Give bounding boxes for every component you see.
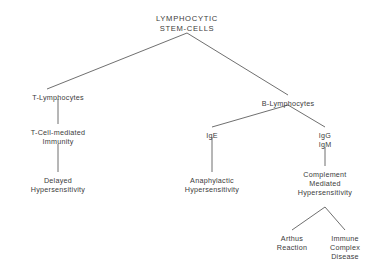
node-t-cell-mediated-immunity: T-Cell-mediatedImmunity [31, 128, 85, 146]
node-label-line: Anaphylactic [185, 176, 239, 185]
edge-b-lymphocytes-to-ige [212, 105, 288, 127]
node-label-line: Hypersensitivity [31, 185, 85, 194]
edge-complement-to-arthus [292, 207, 325, 230]
node-immune-complex-disease: ImmuneComplexDisease [330, 234, 360, 262]
node-label-line: Reaction [277, 243, 307, 252]
node-label-line: Complement [298, 170, 352, 179]
node-label-line: Immune [330, 234, 360, 243]
node-b-lymphocytes: B-Lymphocytes [262, 99, 315, 108]
node-label-line: T-Cell-mediated [31, 128, 85, 137]
node-ige: IgE [206, 131, 218, 140]
edge-b-lymphocytes-to-igg-igm [288, 105, 325, 127]
node-t-lymphocytes: T-Lymphocytes [32, 93, 84, 102]
edge-root-to-t-lymphocytes [47, 33, 187, 89]
node-arthus-reaction: ArthusReaction [277, 234, 307, 252]
node-lymphocytic-stem-cells: LYMPHOCYTICSTEM-CELLS [156, 14, 218, 34]
node-complement-mediated-hypersensitivity: ComplementMediatedHypersensitivity [298, 170, 352, 198]
node-label-line: IgG [319, 131, 332, 140]
node-label-line: Arthus [277, 234, 307, 243]
node-label-line: LYMPHOCYTIC [156, 14, 218, 24]
lymphocyte-hierarchy-diagram: LYMPHOCYTICSTEM-CELLST-LymphocytesT-Cell… [0, 0, 375, 273]
node-label-line: Disease [330, 252, 360, 261]
node-label-line: Immunity [31, 137, 85, 146]
edge-root-to-b-lymphocytes [187, 33, 288, 95]
node-label-line: Mediated [298, 179, 352, 188]
node-label-line: Complex [330, 243, 360, 252]
node-label-line: STEM-CELLS [156, 24, 218, 34]
edge-complement-to-immune-complex [325, 207, 345, 230]
node-label-line: IgE [206, 131, 218, 140]
node-label-line: Hypersensitivity [185, 185, 239, 194]
node-label-line: B-Lymphocytes [262, 99, 315, 108]
node-anaphylactic-hypersensitivity: AnaphylacticHypersensitivity [185, 176, 239, 194]
node-label-line: Hypersensitivity [298, 188, 352, 197]
node-label-line: Delayed [31, 176, 85, 185]
node-label-line: IgM [319, 140, 332, 149]
node-delayed-hypersensitivity: DelayedHypersensitivity [31, 176, 85, 194]
node-igg-igm: IgGIgM [319, 131, 332, 149]
node-label-line: T-Lymphocytes [32, 93, 84, 102]
